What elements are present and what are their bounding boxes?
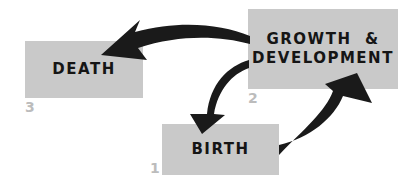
arrow-growth-to-death-icon: [101, 20, 250, 60]
arrows-layer: [0, 0, 419, 184]
arrow-growth-to-birth-icon: [190, 60, 249, 134]
arrow-birth-to-growth-icon: [279, 73, 372, 155]
